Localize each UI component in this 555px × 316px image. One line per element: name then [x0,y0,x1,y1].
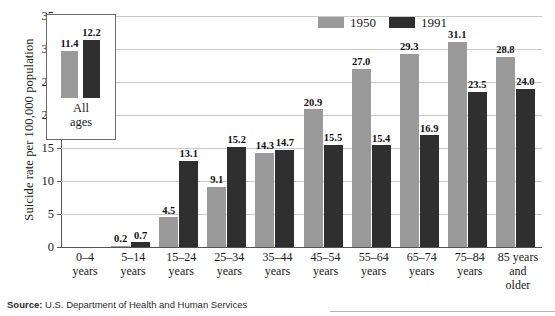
inset-caption-line-1: All [47,101,115,115]
bar-value-label: 24.0 [516,77,534,88]
x-category-line: years [253,265,301,279]
x-category-label: 85 yearsandolder [494,251,542,292]
x-category-line: 85 years [494,251,542,265]
legend-label-1991: 1991 [421,16,447,29]
bar-group: 27.015.4 [350,16,398,247]
bar-1991: 0.7 [131,242,150,247]
y-tick-label-5: 5 [48,208,54,221]
x-category-line: 5–14 [109,251,157,265]
bar-group: 14.314.7 [253,16,301,247]
x-category-line: 0–4 [61,251,109,265]
bar-value-label: 13.1 [180,149,198,160]
x-category-label: 75–84years [446,251,494,279]
bar-1991: 13.1 [179,161,198,247]
bar-groups: 0.20.74.513.19.115.214.314.720.915.527.0… [61,16,542,248]
legend-label-1950: 1950 [350,16,376,29]
inset-caption-line-2: ages [47,115,115,129]
bar-value-label: 0.7 [134,231,147,242]
bar-group: 20.915.5 [302,16,350,247]
inset-bar-1991: 12.2 [83,40,100,98]
x-category-line: years [205,265,253,279]
bar-value-label: 16.9 [420,124,438,135]
inset-value-1950: 11.4 [61,39,79,50]
bar-1950: 29.3 [400,54,419,247]
bar-1950: 20.9 [304,109,323,247]
bar-value-label: 29.3 [400,42,418,53]
page-bottom-rule [330,311,555,312]
bar-group: 28.824.0 [494,16,542,247]
legend-item-1950: 1950 [318,16,376,29]
legend-item-1991: 1991 [389,16,447,29]
x-category-line: 65–74 [398,251,446,265]
bar-value-label: 15.4 [372,134,390,145]
bar-value-label: 31.1 [448,30,466,41]
x-category-label: 45–54years [302,251,350,279]
x-category-label: 55–64years [350,251,398,279]
x-category-line: 25–34 [205,251,253,265]
bar-group: 0.20.7 [109,16,157,247]
x-category-line: years [350,265,398,279]
x-category-line: years [61,265,109,279]
bar-group: 9.115.2 [205,16,253,247]
bar-value-label: 15.2 [228,135,246,146]
bar-1991: 23.5 [468,92,487,247]
bar-1950: 31.1 [448,42,467,247]
bar-1991: 14.7 [275,150,294,247]
bar-group: 29.316.9 [398,16,446,247]
bar-value-label: 9.1 [210,175,223,186]
bar-1991: 16.9 [420,135,439,247]
suicide-rate-bar-chart-figure: Suicide rate per 100,000 population 0510… [0,0,555,316]
bar-value-label: 23.5 [468,80,486,91]
x-category-label: 5–14years [109,251,157,279]
bar-1991: 15.2 [227,147,246,247]
bar-value-label: 4.5 [162,206,175,217]
source-label: Source: [7,299,42,310]
y-tick-label-0: 0 [48,241,54,254]
bar-value-label: 15.5 [324,133,342,144]
x-category-line: years [398,265,446,279]
x-category-line: years [109,265,157,279]
x-category-line: 35–44 [253,251,301,265]
bar-1950: 9.1 [207,187,226,247]
bar-1950: 4.5 [159,217,178,247]
y-axis-title: Suicide rate per 100,000 population [22,10,37,250]
bar-value-label: 14.3 [256,141,274,152]
bar-value-label: 27.0 [352,57,370,68]
x-category-line: and [494,265,542,279]
bar-value-label: 28.8 [496,45,514,56]
bar-1950: 27.0 [352,69,371,247]
all-ages-inset-bars: 11.4 12.2 [47,36,115,98]
x-category-line: 75–84 [446,251,494,265]
bar-value-label: 14.7 [276,138,294,149]
x-category-line: 55–64 [350,251,398,265]
y-tick-label-15: 15 [42,142,55,155]
x-category-line: older [494,279,542,293]
y-tick-label-10: 10 [42,175,55,188]
legend-swatch-1950 [318,17,344,28]
bar-group: 4.513.1 [157,16,205,247]
x-category-label: 0–4years [61,251,109,279]
bar-1950: 14.3 [255,153,274,247]
bar-value-label: 0.2 [114,234,127,245]
x-category-line: years [446,265,494,279]
inset-caption: All ages [47,101,115,130]
x-category-label: 15–24years [157,251,205,279]
x-axis-category-labels: 0–4years5–14years15–24years25–34years35–… [61,251,542,299]
all-ages-inset-box: 11.4 12.2 All ages [46,14,116,140]
bar-group: 31.123.5 [446,16,494,247]
source-text: U.S. Department of Health and Human Serv… [45,299,247,310]
x-category-line: 45–54 [302,251,350,265]
x-category-label: 65–74years [398,251,446,279]
source-note: Source: U.S. Department of Health and Hu… [7,299,247,310]
x-category-label: 25–34years [205,251,253,279]
x-category-label: 35–44years [253,251,301,279]
legend: 1950 1991 [318,16,447,29]
inset-bar-1950: 11.4 [61,51,78,98]
inset-value-1991: 12.2 [82,28,100,39]
bar-1991: 24.0 [516,89,535,247]
legend-swatch-1991 [389,17,415,28]
plot-area: 05101520253035 0.20.74.513.19.115.214.31… [61,16,542,248]
bar-1950: 0.2 [111,246,130,247]
bar-1991: 15.4 [372,145,391,247]
bar-value-label: 20.9 [304,98,322,109]
